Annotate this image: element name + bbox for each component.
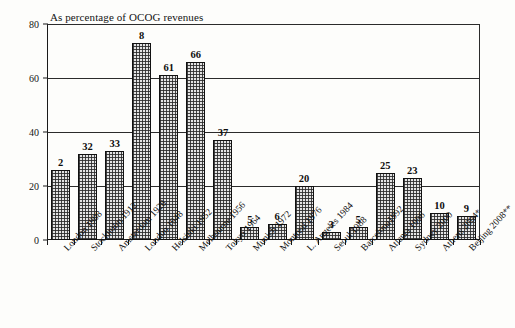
bar-value-label: 20: [299, 173, 310, 184]
bar-series: 2323386166375620352523109: [47, 24, 480, 240]
bar-value-label: 32: [82, 141, 93, 152]
bar-l-angeles-1984: 20: [295, 24, 314, 240]
bar-sydney-2000: 23: [403, 24, 422, 240]
bar-value-label: 37: [218, 127, 229, 138]
bar-value-label: 33: [109, 138, 120, 149]
bar-tokyo-1964: 37: [213, 24, 232, 240]
bar-rect: [51, 170, 70, 240]
bar-seoul-1988: 3: [322, 24, 341, 240]
y-tick-label-80: 80: [15, 19, 39, 30]
bar-value-label: 66: [191, 49, 202, 60]
bar-value-label: 8: [139, 30, 144, 41]
bar-amsterdam-1928: 33: [105, 24, 124, 240]
bar-value-label: 61: [164, 62, 175, 73]
y-tick-label-20: 20: [15, 181, 39, 192]
bar-melbourne-1956: 66: [186, 24, 205, 240]
chart-title: As percentage of OCOG revenues: [50, 11, 203, 23]
y-tick-label-60: 60: [15, 73, 39, 84]
bar-value-label: 10: [434, 200, 445, 211]
bar-montreal-1976: 6: [268, 24, 287, 240]
bar-value-label: 23: [407, 165, 418, 176]
y-tick-label-40: 40: [15, 127, 39, 138]
bar-atlanta-1996: 25: [376, 24, 395, 240]
bar-beijing-2008-: 9: [457, 24, 476, 240]
x-tick-mark: [47, 240, 48, 245]
bar-value-label: 2: [58, 157, 63, 168]
bar-athens-2004-: 10: [430, 24, 449, 240]
bar-stockholm-1912: 32: [78, 24, 97, 240]
bar-value-label: 25: [380, 160, 391, 171]
bar-value-label: 9: [464, 203, 469, 214]
y-tick-label-0: 0: [15, 235, 39, 246]
bar-london-1908: 2: [51, 24, 70, 240]
